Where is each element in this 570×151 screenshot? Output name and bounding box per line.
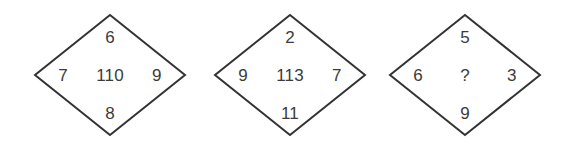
diamond-2-left-value: 9 (204, 67, 248, 84)
diamond-2-right-value: 7 (332, 67, 376, 84)
diamond-3-left-value: 6 (379, 67, 423, 84)
diamond-1-bottom-value: 8 (80, 105, 140, 122)
diamond-3-center-unknown: ? (435, 67, 495, 84)
diamond-3-bottom-value: 9 (435, 105, 495, 122)
diamond-2-center-value: 113 (260, 67, 320, 84)
diamond-2-bottom-value: 11 (260, 105, 320, 122)
diamond-1-left-value: 7 (24, 67, 68, 84)
diamond-1: 6 7 110 9 8 (25, 0, 195, 151)
diamond-puzzle-figure: 6 7 110 9 8 2 9 113 7 11 5 6 ? 3 9 (0, 0, 570, 151)
diamond-1-center-value: 110 (80, 67, 140, 84)
diamond-2: 2 9 113 7 11 (205, 0, 375, 151)
diamond-3-right-value: 3 (507, 67, 551, 84)
diamond-3-top-value: 5 (435, 29, 495, 46)
diamond-3: 5 6 ? 3 9 (380, 0, 550, 151)
diamond-1-right-value: 9 (152, 67, 196, 84)
diamond-2-top-value: 2 (260, 29, 320, 46)
diamond-1-top-value: 6 (80, 29, 140, 46)
